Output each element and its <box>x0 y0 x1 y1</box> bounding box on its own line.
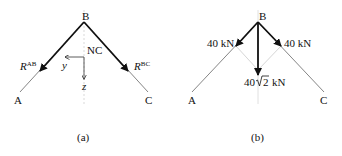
force-right-label: 40 kN <box>284 37 311 49</box>
resultant-label: 40 2 kN <box>244 76 286 88</box>
node-b-label: B <box>82 10 89 22</box>
truss-force-diagram: B A C NC y z RAB RBC (a) B A C 40 kN 40 … <box>0 0 342 156</box>
force-label-rbc: RBC <box>133 60 150 72</box>
node-a-label: A <box>188 94 196 106</box>
axis-z-label: z <box>81 80 87 92</box>
node-c-label: C <box>145 94 152 106</box>
panel-b: B A C 40 kN 40 kN 40 2 kN (b) <box>188 10 327 144</box>
resultant-unit: kN <box>272 76 286 88</box>
node-b-label: B <box>259 10 266 22</box>
force-label-rab: RAB <box>19 60 37 72</box>
node-a-label: A <box>14 94 22 106</box>
neutral-center-label: NC <box>87 44 102 56</box>
force-arrow-right <box>258 22 281 46</box>
panel-a: B A C NC y z RAB RBC (a) <box>14 10 152 144</box>
force-left-label: 40 kN <box>207 37 234 49</box>
caption-b: (b) <box>251 131 264 144</box>
axis-y-label: y <box>61 59 67 71</box>
resultant-prefix: 40 <box>244 76 256 88</box>
resultant-radicand: 2 <box>263 76 269 88</box>
force-arrow-left <box>236 22 258 46</box>
caption-a: (a) <box>77 131 90 144</box>
node-c-label: C <box>320 94 327 106</box>
